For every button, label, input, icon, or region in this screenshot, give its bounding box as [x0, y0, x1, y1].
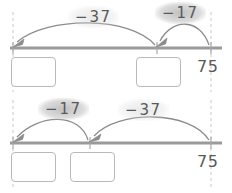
answer-box-2[interactable] [136, 57, 181, 87]
minus-sign: − [125, 101, 140, 119]
jump-arc-minus-17 [160, 24, 209, 45]
endpoint-value-75: 75 [197, 57, 218, 76]
jump-label-minus-17: −17 [155, 4, 206, 22]
jump-label-minus-37: −37 [118, 101, 169, 119]
jump-label-minus-37: −37 [68, 8, 119, 26]
answer-box-4[interactable] [70, 152, 115, 182]
jump-value: 17 [177, 4, 199, 22]
endpoint-value-75: 75 [197, 152, 218, 171]
jump-value: 17 [60, 100, 82, 118]
minus-sign: − [45, 100, 60, 118]
minus-sign: − [162, 4, 177, 22]
first-number-line: −37 −17 75 [0, 0, 232, 96]
answer-box-1[interactable] [11, 57, 56, 87]
jump-label-minus-17: −17 [38, 100, 89, 118]
minus-sign: − [75, 8, 90, 26]
answer-box-3[interactable] [11, 152, 56, 182]
jump-arc-minus-17 [17, 119, 88, 140]
second-number-line: −17 −37 75 [0, 96, 232, 192]
worksheet-root: −37 −17 75 [0, 0, 232, 193]
jump-value: 37 [140, 101, 162, 119]
jump-value: 37 [90, 8, 112, 26]
